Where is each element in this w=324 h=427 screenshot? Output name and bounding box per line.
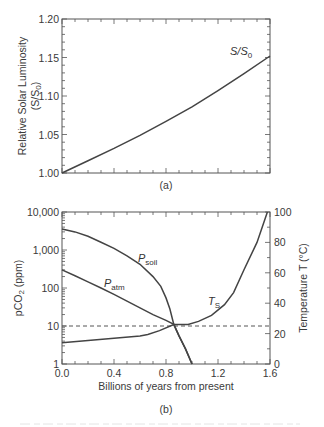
panel-b-label: (b) — [160, 403, 173, 415]
y-tick-label: 1.05 — [39, 129, 60, 141]
panel-a-series — [62, 56, 270, 173]
panel-a-x-ticks — [62, 19, 270, 173]
y2-tick-label: 0 — [274, 358, 280, 370]
y-tick-label: 10,000 — [27, 206, 59, 218]
series-line-t-s — [62, 212, 267, 343]
series-label-s-s0: S/S0 — [230, 45, 253, 60]
series-label-p-atm: Patm — [104, 277, 125, 292]
series-line-s-s0 — [62, 56, 270, 173]
panel-a-label: (a) — [160, 179, 173, 191]
series-label-t-s: TS — [208, 295, 220, 310]
panel-a-ylabel: Relative Solar Luminosity — [16, 36, 28, 155]
panel-a-luminosity-chart: 1.001.051.101.151.20 Relative Solar Lumi… — [16, 13, 270, 191]
y2-tick-label: 100 — [274, 206, 292, 218]
panel-b-series — [62, 212, 270, 364]
series-line-p-soil — [62, 229, 192, 364]
panel-b-ylabel: pCO2 (ppm) — [12, 260, 26, 316]
y2-tick-label: 40 — [274, 297, 286, 309]
y-tick-label: 1.00 — [39, 167, 60, 179]
panel-a-y-ticks: 1.001.051.101.151.20 — [39, 13, 270, 179]
x-tick-label: 1.2 — [211, 367, 226, 379]
y-tick-label: 1 — [53, 358, 59, 370]
y2-tick-label: 80 — [274, 236, 286, 248]
panel-b-frame — [62, 212, 270, 364]
panel-b-co2-temperature-chart: 0.00.40.81.21.6 1101001,00010,000 020406… — [12, 206, 309, 415]
panel-a-ylabel-line2: (S/S0) — [29, 82, 43, 110]
panel-b-right-y-ticks: 020406080100 — [265, 206, 292, 370]
x-tick-label: 0.4 — [107, 367, 122, 379]
panel-a-frame — [62, 19, 270, 173]
y2-tick-label: 60 — [274, 267, 286, 279]
y2-tick-label: 20 — [274, 328, 286, 340]
panel-b-y2label: Temperature T (°C) — [297, 243, 309, 333]
y-tick-label: 100 — [41, 282, 59, 294]
y-tick-label: 10 — [47, 320, 59, 332]
y-tick-label: 1.20 — [39, 13, 60, 25]
figure: 1.001.051.101.151.20 Relative Solar Lumi… — [0, 0, 324, 427]
y-tick-label: 1.15 — [39, 52, 60, 64]
x-tick-label: 0.8 — [159, 367, 174, 379]
y-tick-label: 1.10 — [39, 90, 60, 102]
panel-b-left-y-ticks: 1101001,00010,000 — [27, 206, 67, 370]
y-tick-label: 1,000 — [33, 244, 59, 256]
panel-b-xlabel: Billions of years from present — [98, 380, 233, 392]
